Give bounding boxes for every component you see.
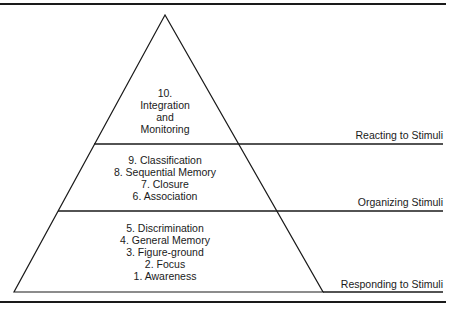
tier-top-item: and: [115, 111, 215, 123]
tier-top-item: Monitoring: [115, 123, 215, 135]
label-reacting-to-stimuli: Reacting to Stimuli: [355, 129, 443, 141]
tier-middle-item: 6. Association: [95, 190, 235, 202]
tier-bottom-text: 5. Discrimination 4. General Memory 3. F…: [95, 222, 235, 282]
tier-middle-item: 7. Closure: [95, 178, 235, 190]
tier-bottom-item: 4. General Memory: [95, 234, 235, 246]
tier-middle-item: 9. Classification: [95, 154, 235, 166]
tier-top-text: 10. Integration and Monitoring: [115, 87, 215, 135]
tier-top-item: Integration: [115, 99, 215, 111]
label-responding-to-stimuli: Responding to Stimuli: [341, 278, 443, 290]
tier-bottom-item: 5. Discrimination: [95, 222, 235, 234]
tier-bottom-item: 1. Awareness: [95, 270, 235, 282]
label-organizing-stimuli: Organizing Stimuli: [358, 196, 443, 208]
tier-top-item: 10.: [115, 87, 215, 99]
tier-middle-text: 9. Classification 8. Sequential Memory 7…: [95, 154, 235, 202]
tier-bottom-item: 2. Focus: [95, 258, 235, 270]
tier-middle-item: 8. Sequential Memory: [95, 166, 235, 178]
tier-bottom-item: 3. Figure-ground: [95, 246, 235, 258]
